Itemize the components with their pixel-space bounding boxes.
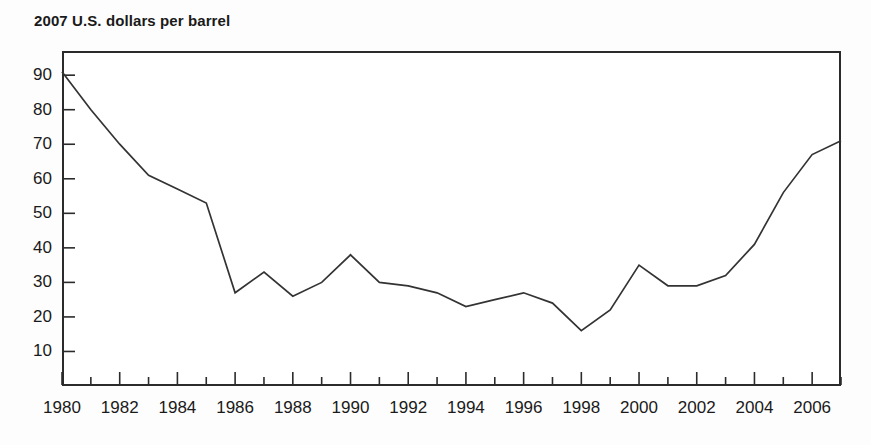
y-tick-label: 50: [6, 203, 52, 223]
y-tick-label: 30: [6, 272, 52, 292]
y-tick-label: 80: [6, 100, 52, 120]
chart-title: 2007 U.S. dollars per barrel: [34, 12, 230, 29]
y-tick-label: 90: [6, 65, 52, 85]
x-tick-label: 2006: [777, 398, 847, 418]
y-tick-label: 20: [6, 307, 52, 327]
y-tick-label: 60: [6, 169, 52, 189]
chart-figure: 2007 U.S. dollars per barrel 90807060504…: [0, 0, 871, 445]
y-tick-label: 10: [6, 341, 52, 361]
y-tick-label: 70: [6, 134, 52, 154]
y-tick-label: 40: [6, 238, 52, 258]
plot-frame: [62, 51, 841, 386]
